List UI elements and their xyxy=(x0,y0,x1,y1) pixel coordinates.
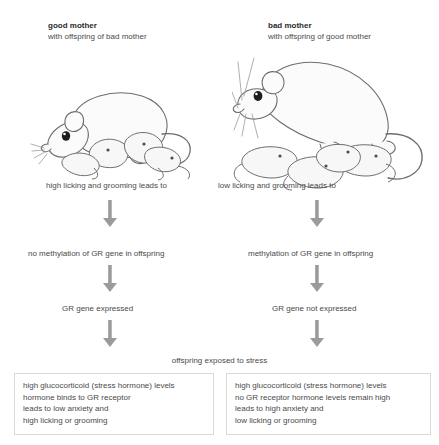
column-header-bad-mother: bad mother with offspring of good mother xyxy=(268,20,371,42)
flow-arrow-right-2 xyxy=(310,265,324,292)
outcome-line: high glucocorticoid (stress hormone) lev… xyxy=(235,380,422,392)
licking-grooming-text-right: low licking and grooming leads to xyxy=(218,180,338,191)
outcome-box-right: high glucocorticoid (stress hormone) lev… xyxy=(226,373,431,435)
outcome-line: hormone binds to GR receptor xyxy=(23,392,205,404)
column-subtitle-left: with offspring of bad mother xyxy=(48,31,147,42)
gene-expression-text-left: GR gene expressed xyxy=(62,303,212,314)
column-title-left: good mother xyxy=(48,20,147,31)
methylation-text-left: no methylation of GR gene in offspring xyxy=(28,248,213,259)
column-subtitle-right: with offspring of good mother xyxy=(268,31,371,42)
outcome-line: leads to low anxiety and xyxy=(23,403,205,415)
flow-arrow-left-3 xyxy=(103,320,117,347)
outcome-line: high licking or grooming xyxy=(23,415,205,427)
gene-expression-text-right: GR gene not expressed xyxy=(272,303,422,314)
column-title-right: bad mother xyxy=(268,20,371,31)
outcome-line: high glucocorticoid (stress hormone) lev… xyxy=(23,380,205,392)
column-header-good-mother: good mother with offspring of bad mother xyxy=(48,20,147,42)
flow-arrow-left-2 xyxy=(103,265,117,292)
outcome-box-left: high glucocorticoid (stress hormone) lev… xyxy=(14,373,214,435)
rat-mother-upright-with-pups-illustration xyxy=(232,52,432,192)
flow-arrow-right-3 xyxy=(310,320,324,347)
licking-grooming-text-left: high licking and grooming leads to xyxy=(46,180,206,191)
flow-arrow-left-1 xyxy=(103,200,117,227)
outcome-line: low licking or grooming xyxy=(235,415,422,427)
flow-arrow-right-1 xyxy=(310,200,324,227)
rat-mother-nursing-pups-illustration xyxy=(30,78,195,183)
epigenetics-maternal-care-diagram: good mother with offspring of bad mother… xyxy=(0,0,439,445)
outcome-line: no GR receptor hormone levels remain hig… xyxy=(235,392,422,404)
outcome-line: leads to high anxiety and xyxy=(235,403,422,415)
methylation-text-right: methylation of GR gene in offspring xyxy=(248,248,433,259)
offspring-exposed-to-stress-label: offspring exposed to stress xyxy=(0,355,439,366)
